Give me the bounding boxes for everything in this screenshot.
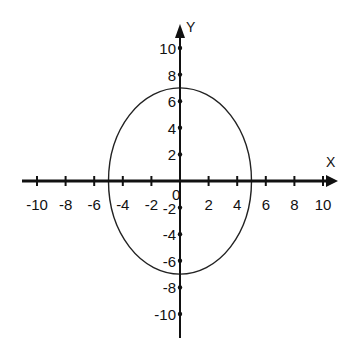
origin-label: 0 <box>172 186 180 203</box>
y-tick <box>178 152 182 156</box>
y-tick <box>178 99 182 103</box>
x-tick-label: -8 <box>59 196 72 213</box>
y-tick <box>178 312 182 316</box>
y-tick-label: 6 <box>168 93 176 110</box>
y-tick <box>178 72 182 76</box>
y-tick-label: -4 <box>163 226 176 243</box>
x-tick-label: 6 <box>262 196 270 213</box>
x-tick-label: -2 <box>145 196 158 213</box>
y-tick <box>178 126 182 130</box>
x-tick-label: 8 <box>290 196 298 213</box>
y-axis-arrow-icon <box>175 24 185 38</box>
coordinate-plane: -10-8-6-4-2246810108642-2-4-6-8-10 X Y 0 <box>0 0 341 347</box>
x-tick-label: 2 <box>204 196 212 213</box>
x-tick-label: -6 <box>88 196 101 213</box>
y-tick-label: -8 <box>163 279 176 296</box>
x-tick-label: -4 <box>116 196 129 213</box>
x-tick-label: 4 <box>233 196 241 213</box>
y-tick-label: -6 <box>163 253 176 270</box>
x-axis-label: X <box>326 154 336 170</box>
y-tick-label: 4 <box>168 120 176 137</box>
y-tick-label: 10 <box>159 40 176 57</box>
x-axis-arrow-icon <box>326 175 338 187</box>
axes <box>22 24 338 338</box>
y-tick-label: 8 <box>168 67 176 84</box>
y-tick <box>178 259 182 263</box>
x-tick-label: -10 <box>26 196 48 213</box>
y-axis-label: Y <box>186 19 196 35</box>
y-tick-label: -10 <box>154 306 176 323</box>
y-tick-label: 2 <box>168 146 176 163</box>
y-tick <box>178 46 182 50</box>
y-tick <box>178 205 182 209</box>
x-tick-label: 10 <box>315 196 332 213</box>
y-tick <box>178 232 182 236</box>
y-tick <box>178 285 182 289</box>
